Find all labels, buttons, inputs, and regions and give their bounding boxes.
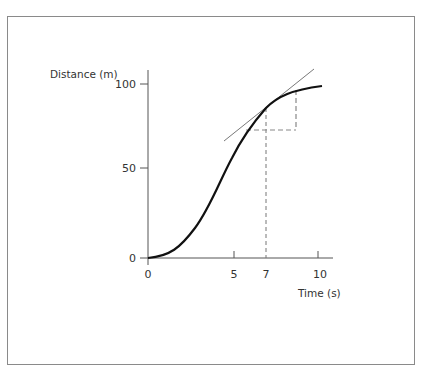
x-tick-label-5: 5 (231, 268, 238, 281)
y-axis-label: Distance (m) (50, 68, 118, 80)
distance-time-curve (148, 86, 322, 258)
x-tick-label-0: 0 (145, 268, 152, 281)
y-tick-label-0: 0 (129, 252, 136, 265)
x-axis-label: Time (s) (297, 287, 341, 299)
x-tick-label-10: 10 (313, 268, 327, 281)
x-tick-label-7: 7 (263, 268, 270, 281)
y-tick-label-50: 50 (122, 162, 136, 175)
y-tick-label-100: 100 (115, 78, 136, 91)
distance-time-chart: 100 50 0 0 5 7 10 Distance (m) Time (s) (0, 0, 429, 378)
